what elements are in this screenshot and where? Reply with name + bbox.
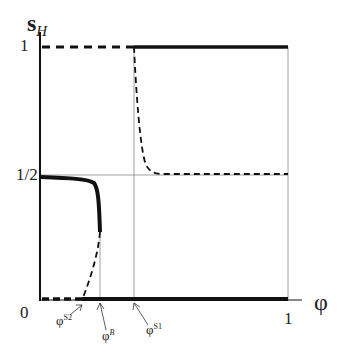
unstable-upper-interior-branch [134, 47, 288, 174]
bifurcation-diagram [0, 0, 342, 354]
x-axis-label: φ [314, 289, 328, 316]
phi-symbol: φ [146, 322, 154, 337]
y-axis-symbol: s [27, 10, 36, 36]
phi-b-label: φB [102, 328, 114, 344]
phi-b-superscript: B [110, 328, 115, 337]
tick-label-1: 1 [20, 36, 29, 56]
tick-label-x1: 1 [284, 309, 293, 329]
phi-s1-label: φS1 [146, 322, 162, 338]
y-axis-subscript: H [36, 23, 47, 39]
phi-s2-label: φS2 [56, 313, 72, 329]
unstable-lower-interior-branch [82, 232, 100, 300]
tick-label-0: 0 [20, 303, 29, 323]
stable-interior-branch [41, 177, 100, 232]
tick-label-half: 1/2 [16, 165, 38, 185]
y-axis-label: sH [27, 10, 47, 37]
phi-s2-superscript: S2 [64, 313, 72, 322]
arrow-phi-b [97, 303, 106, 330]
phi-symbol: φ [56, 313, 64, 328]
phi-symbol: φ [102, 328, 110, 343]
phi-s1-superscript: S1 [154, 322, 162, 331]
